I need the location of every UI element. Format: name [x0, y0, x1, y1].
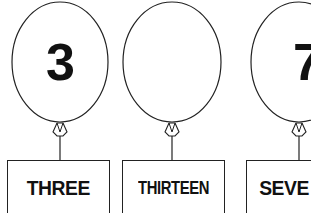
- number-word: THREE: [27, 176, 90, 200]
- word-label-box: SEVE: [246, 160, 311, 213]
- balloon-numeral: 3: [5, 36, 115, 88]
- word-label-box: THREE: [7, 160, 110, 213]
- number-word: SEVE: [259, 176, 309, 200]
- number-balloons-worksheet: 3 THREE THIRTEEN 7 SEVE: [0, 0, 311, 213]
- word-label-box: THIRTEEN: [122, 160, 225, 213]
- balloon-numeral: 7: [252, 36, 311, 88]
- number-word: THIRTEEN: [138, 177, 209, 199]
